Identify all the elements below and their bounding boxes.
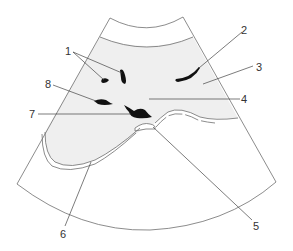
shaded-organ-region — [45, 37, 238, 166]
label-3: 3 — [256, 62, 262, 73]
label-1: 1 — [65, 46, 71, 57]
label-2: 2 — [241, 25, 247, 36]
label-5: 5 — [253, 221, 259, 232]
diagram-canvas — [0, 0, 293, 251]
leader-5 — [153, 127, 252, 220]
label-7: 7 — [29, 109, 35, 120]
label-8: 8 — [45, 79, 51, 90]
label-4: 4 — [241, 94, 247, 105]
leader-6 — [65, 162, 91, 226]
label-6: 6 — [60, 229, 66, 240]
sector-top-arc — [110, 17, 183, 28]
ultrasound-diagram: 1 2 3 4 5 6 7 8 — [0, 0, 293, 251]
leader-2 — [199, 32, 242, 68]
